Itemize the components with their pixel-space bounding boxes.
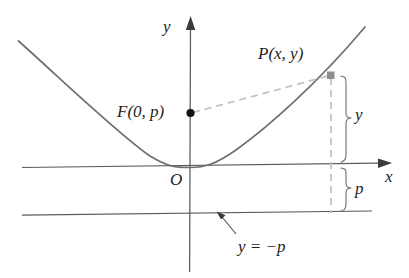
directrix-label: y = −p <box>238 238 286 255</box>
focus-label: F(0, p) <box>117 103 164 120</box>
parabola-figure: y x O P(x, y) F(0, p) y p y = −p <box>0 0 409 278</box>
y-axis <box>186 16 196 272</box>
y-axis-line <box>190 26 191 272</box>
x-axis-label: x <box>385 168 393 185</box>
parabola-curve <box>19 27 366 168</box>
directrix-line <box>22 211 372 215</box>
directrix-line-group <box>22 211 372 215</box>
arrowhead-up-icon <box>186 16 196 30</box>
brace-y-label: y <box>355 106 363 123</box>
brace-p-label: p <box>355 180 364 197</box>
brace-p-icon <box>341 168 351 211</box>
focal-radius-dashed <box>193 76 328 113</box>
directrix-pointer-icon <box>217 212 237 235</box>
brace-y-icon <box>341 76 351 162</box>
y-axis-label: y <box>163 18 171 35</box>
origin-label: O <box>170 171 182 188</box>
focus-point-icon <box>186 109 194 117</box>
figure-canvas <box>0 0 409 278</box>
point-p-label: P(x, y) <box>258 45 303 62</box>
curve-point-marker-icon <box>327 72 335 80</box>
x-axis <box>22 158 392 168</box>
